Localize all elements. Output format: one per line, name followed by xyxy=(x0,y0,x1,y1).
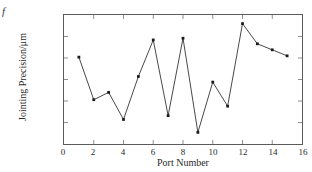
figure-container: f 10.0510.110.1510.210.2510.310.35 02468… xyxy=(0,0,312,172)
x-tick-label: 10 xyxy=(209,148,218,157)
y-axis-title: Jointing Precision/μm xyxy=(18,17,28,137)
x-axis-title: Port Number xyxy=(63,158,303,168)
x-tick-label: 12 xyxy=(239,148,248,157)
x-tick-label: 6 xyxy=(151,148,156,157)
x-tick-label: 4 xyxy=(121,148,126,157)
x-tick-label: 16 xyxy=(299,148,308,157)
x-axis-tick-labels: 0246810121416 xyxy=(0,0,312,172)
x-tick-label: 0 xyxy=(61,148,66,157)
x-tick-label: 14 xyxy=(269,148,278,157)
x-tick-label: 2 xyxy=(91,148,96,157)
x-tick-label: 8 xyxy=(181,148,186,157)
